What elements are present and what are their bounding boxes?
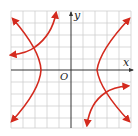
x-axis-label: x <box>123 56 130 69</box>
second-curve-upper <box>11 13 56 55</box>
second-curve-lower <box>87 86 128 125</box>
second-curve <box>11 13 128 125</box>
origin-label: O <box>60 71 68 82</box>
y-axis-label: y <box>73 9 81 22</box>
graph-figure: x y O <box>0 0 138 136</box>
axes <box>11 12 133 128</box>
